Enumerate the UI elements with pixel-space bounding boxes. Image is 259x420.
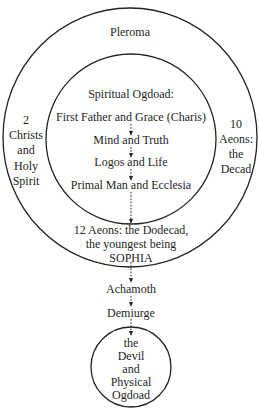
pleroma-label: Pleroma: [110, 25, 151, 39]
aeon-pair-logos: Logos and Life: [94, 155, 167, 169]
left-label-line: Spirit: [13, 174, 40, 188]
left-label-line: Holy: [14, 159, 38, 173]
right-label-line: Decad: [221, 162, 252, 176]
dodecad-line: the youngest being: [86, 237, 177, 251]
aeon-pair-primal-man: Primal Man and Ecclesia: [71, 178, 192, 192]
left-label-line: Christs: [9, 128, 43, 142]
devil-label-line: and: [122, 362, 139, 376]
spiritual-ogdoad-heading: Spiritual Ogdoad:: [88, 87, 174, 101]
demiurge-label: Demiurge: [107, 306, 155, 320]
dodecad-line: 12 Aeons: the Dodecad,: [74, 223, 189, 237]
left-label-line: and: [17, 143, 34, 157]
aeon-pair-first-father: First Father and Grace (Charis): [56, 110, 206, 124]
aeon-pair-mind: Mind and Truth: [93, 133, 168, 147]
achamoth-label: Achamoth: [106, 282, 156, 296]
devil-label-line: the: [124, 336, 139, 350]
left-label-line: 2: [23, 113, 29, 127]
connector-primal-man-to-dodecad: [129, 192, 133, 224]
right-label-line: the: [229, 147, 244, 161]
devil-label-line: Devil: [118, 349, 145, 363]
diagram-canvas: Pleroma 2 Christs and Holy Spirit 10 Aeo…: [0, 0, 259, 420]
right-label-line: Aeons:: [219, 132, 253, 146]
devil-label-line: Physical: [111, 375, 152, 389]
devil-label-line: Ogdoad: [112, 388, 150, 402]
connector-sophia-to-achamoth: [129, 262, 133, 283]
sophia-label: SOPHIA: [109, 251, 153, 265]
right-label-line: 10: [230, 117, 242, 131]
